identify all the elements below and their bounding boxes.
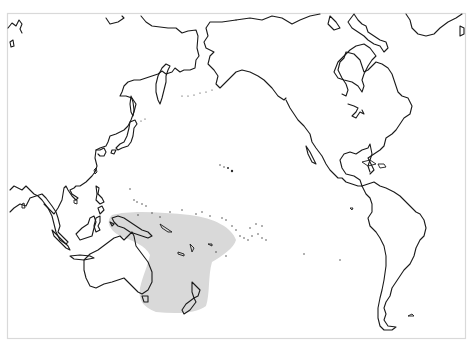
island-dot xyxy=(249,227,250,228)
island-dot xyxy=(221,217,222,218)
island-dot xyxy=(261,225,262,226)
island-dot xyxy=(261,237,262,238)
island-dot xyxy=(209,215,210,216)
island-dot xyxy=(225,219,226,220)
island-dot xyxy=(169,211,170,212)
island-dot xyxy=(243,237,244,238)
island-dot xyxy=(151,212,152,213)
island-dot xyxy=(159,216,160,217)
island-dot xyxy=(181,209,182,210)
island-dot xyxy=(215,251,216,252)
island-dot xyxy=(231,225,232,226)
island-dot xyxy=(136,201,137,202)
island-dot xyxy=(141,203,142,204)
island-dot xyxy=(145,205,146,206)
island-dot xyxy=(225,255,226,256)
island-dot xyxy=(265,239,266,240)
island-dot xyxy=(251,235,252,236)
island-dot xyxy=(339,259,340,260)
island-dot xyxy=(129,188,130,189)
island-dot xyxy=(133,199,134,200)
island-dot xyxy=(257,233,258,234)
map-frame xyxy=(8,14,466,339)
island-dot xyxy=(201,211,202,212)
world-map xyxy=(0,0,476,346)
island-dot xyxy=(255,223,256,224)
island-dot xyxy=(239,235,240,236)
island-dot xyxy=(195,213,196,214)
island-dot xyxy=(137,214,138,215)
island-dot xyxy=(235,229,236,230)
island-dot xyxy=(247,239,248,240)
island-dot xyxy=(303,253,304,254)
